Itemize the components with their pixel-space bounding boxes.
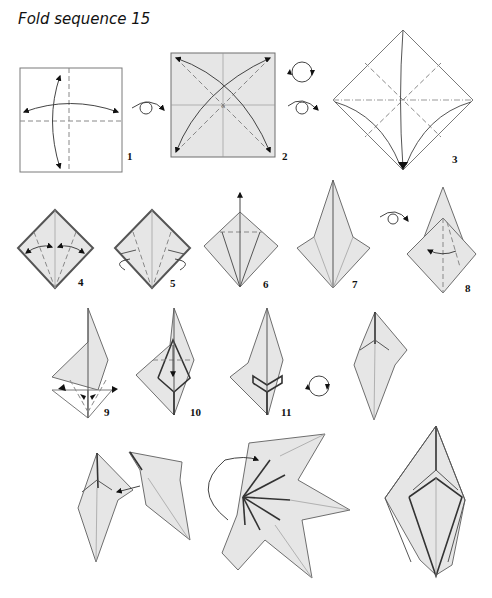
step-13-diagram	[78, 452, 190, 562]
step-number-11: 11	[281, 406, 291, 418]
step-1-diagram	[20, 68, 122, 172]
step-number-2: 2	[282, 150, 288, 162]
step-5-diagram	[115, 210, 190, 288]
step-number-1: 1	[127, 150, 133, 162]
step-number-5: 5	[170, 277, 176, 289]
step-15-diagram	[385, 426, 465, 576]
step-number-9: 9	[104, 406, 110, 418]
step-number-8: 8	[465, 282, 471, 294]
step-9-diagram	[52, 308, 118, 418]
step-10-diagram	[136, 308, 194, 415]
step-number-7: 7	[352, 278, 358, 290]
step-2-diagram: ×	[171, 53, 275, 157]
step-number-3: 3	[452, 153, 458, 165]
step-6-diagram	[204, 193, 278, 287]
rotate-icon	[305, 376, 330, 396]
turn-over-icon	[288, 101, 318, 114]
step-12-diagram	[354, 312, 407, 420]
step-11-diagram	[230, 308, 283, 415]
rotate-icon	[287, 62, 315, 82]
step-number-4: 4	[78, 276, 84, 288]
step-7-diagram	[297, 180, 370, 288]
svg-text:×: ×	[221, 102, 226, 111]
step-number-6: 6	[263, 278, 269, 290]
step-number-10: 10	[190, 406, 201, 418]
step-14-diagram	[208, 434, 350, 578]
fold-diagram-canvas: ×	[0, 0, 492, 598]
step-8-diagram	[407, 187, 476, 293]
step-3-diagram	[333, 30, 473, 170]
turn-over-icon	[132, 102, 164, 114]
turn-over-icon	[380, 212, 408, 224]
